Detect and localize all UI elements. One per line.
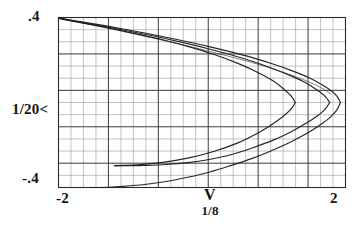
x-axis-tick-left: -2 [56, 190, 69, 207]
x-axis-title: V [196, 186, 224, 204]
plot-canvas [0, 0, 363, 236]
y-axis-title: 1/20< [12, 101, 48, 118]
x-axis-subtitle: 1/8 [196, 203, 224, 219]
phase-plot-figure: .4 -.4 1/20< -2 2 V 1/8 [0, 0, 363, 236]
y-axis-tick-bottom: -.4 [22, 170, 39, 187]
x-axis-tick-right: 2 [330, 190, 338, 207]
y-axis-tick-top: .4 [28, 8, 40, 25]
